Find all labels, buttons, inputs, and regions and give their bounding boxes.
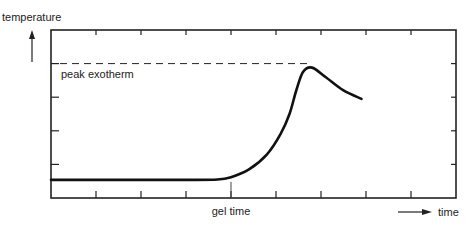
cure-chart: temperature peak exotherm gel time time: [0, 0, 470, 227]
peak-exotherm-label: peak exotherm: [61, 68, 134, 80]
plot-frame: [51, 30, 456, 198]
x-ticks: [96, 30, 411, 198]
x-axis-label: time: [438, 206, 459, 218]
series-line-cure-temperature: [51, 67, 362, 179]
x-axis-arrow-icon: [398, 209, 432, 215]
gel-time-label: gel time: [212, 205, 251, 217]
y-axis-label: temperature: [2, 11, 61, 23]
y-axis-arrow-icon: [29, 30, 35, 62]
